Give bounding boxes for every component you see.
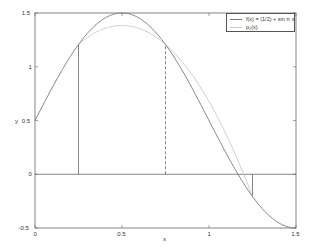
x-axis-label: x [163,236,166,242]
legend-label-f: f(x) = (1/2) + sin π x [246,16,294,22]
y-tick-label: 0 [29,171,32,177]
y-tick-label: 0.5 [22,118,30,124]
legend-entry-p2: p₂(x) [230,23,258,31]
f-curve [35,13,296,228]
x-tick-label: 0 [33,231,36,237]
x-tick-label: 1.5 [291,231,299,237]
legend-line-f [230,19,242,20]
plot-area [0,0,315,249]
y-tick-label: -0.5 [18,225,28,231]
x-tick-label: 0.5 [117,231,125,237]
y-axis-label: y [15,118,18,124]
y-tick-label: 1 [29,64,32,70]
annotation-lines [35,44,296,196]
p2-curve [79,25,253,196]
legend-line-p2 [230,27,242,28]
legend-label-p2: p₂(x) [246,24,258,30]
legend: f(x) = (1/2) + sin π x p₂(x) [226,13,295,32]
y-tick-label: 1.5 [22,10,30,16]
x-tick-label: 1 [207,231,210,237]
legend-entry-f: f(x) = (1/2) + sin π x [230,15,294,23]
